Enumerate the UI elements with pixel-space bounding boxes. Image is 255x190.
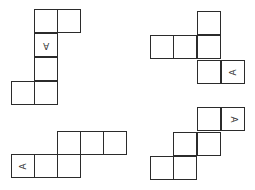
net-face xyxy=(197,60,221,84)
net-face xyxy=(11,81,35,105)
net-face xyxy=(80,131,104,155)
net-face xyxy=(150,156,174,180)
net-face xyxy=(197,132,221,156)
net-face xyxy=(173,132,197,156)
net-face xyxy=(57,9,81,33)
letter-a-glyph: A xyxy=(43,41,49,50)
net-face xyxy=(34,9,58,33)
letter-a-glyph: A xyxy=(18,163,27,169)
net-face-marked: A xyxy=(221,107,245,131)
net-face xyxy=(57,154,81,178)
net-face xyxy=(173,35,197,59)
net-face xyxy=(34,81,58,105)
cube-nets-diagram: AAAA xyxy=(0,0,255,190)
net-face xyxy=(34,154,58,178)
net-face xyxy=(197,35,221,59)
net-face xyxy=(34,57,58,81)
net-face-marked: A xyxy=(34,33,58,57)
net-face xyxy=(103,131,127,155)
net-face xyxy=(197,107,221,131)
net-face-marked: A xyxy=(221,60,245,84)
letter-a-glyph: A xyxy=(228,69,237,75)
net-face xyxy=(150,35,174,59)
net-face-marked: A xyxy=(11,154,35,178)
letter-a-glyph: A xyxy=(228,116,237,122)
net-face xyxy=(57,131,81,155)
net-face xyxy=(197,11,221,35)
net-face xyxy=(173,156,197,180)
